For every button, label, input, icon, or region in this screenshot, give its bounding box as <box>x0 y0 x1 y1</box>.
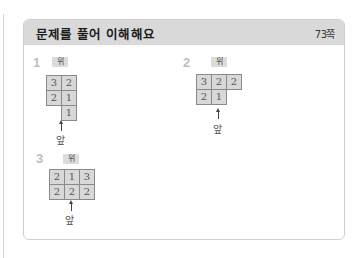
grid-cell: 3 <box>46 75 62 91</box>
grid-cell: 2 <box>46 90 62 106</box>
problem-number: 1 <box>33 55 40 70</box>
page-margin-line <box>3 14 4 258</box>
top-label: 위 <box>52 57 68 67</box>
front-label: 앞 <box>56 132 65 147</box>
problem-number: 2 <box>183 55 190 70</box>
card-title: 문제를 풀어 이해해요 <box>36 24 155 43</box>
arrow-up-icon <box>71 203 72 211</box>
page-reference: 73쪽 <box>315 26 335 41</box>
problem-number: 3 <box>36 151 43 166</box>
grid-cell: 2 <box>61 75 77 91</box>
card-header: 문제를 풀어 이해해요 73쪽 <box>24 20 344 45</box>
grid-cell: 3 <box>79 169 95 185</box>
arrow-up-icon <box>61 123 62 131</box>
grid-cell: 1 <box>211 89 227 105</box>
grid-cell: 2 <box>49 169 65 185</box>
grid-cell: 1 <box>64 169 80 185</box>
grid-cell: 2 <box>226 74 242 90</box>
grid-cell: 2 <box>211 74 227 90</box>
grid-cell: 2 <box>64 184 80 200</box>
grid-cell: 2 <box>196 89 212 105</box>
grid-cell: 1 <box>61 105 77 121</box>
grid-cell: 2 <box>79 184 95 200</box>
top-label: 위 <box>63 154 79 164</box>
grid-cell: 2 <box>49 184 65 200</box>
top-label: 위 <box>211 57 227 67</box>
front-label: 앞 <box>65 212 74 227</box>
front-label: 앞 <box>213 121 222 136</box>
grid-cell: 3 <box>196 74 212 90</box>
grid-cell: 1 <box>61 90 77 106</box>
arrow-up-icon <box>218 111 219 119</box>
